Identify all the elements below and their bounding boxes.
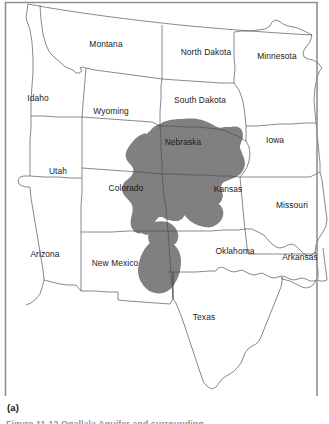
state-label-nebraska: Nebraska [165,137,202,147]
state-label-new-mexico: New Mexico [92,258,139,268]
state-label-idaho: Idaho [27,93,49,103]
subfigure-label: (a) [7,402,19,413]
state-label-texas: Texas [193,312,215,322]
state-label-arkansas: Arkansas [282,252,318,262]
state-label-oklahoma: Oklahoma [216,246,255,256]
figure-caption: Figure 11-12 Ogallala Aquifer and surrou… [6,419,306,424]
state-label-arizona: Arizona [30,249,59,259]
figure-panel: Montana North Dakota Minnesota Idaho Wyo… [0,0,329,424]
state-label-colorado: Colorado [109,183,144,193]
state-label-kansas: Kansas [214,184,243,194]
us-great-plains-map: Montana North Dakota Minnesota Idaho Wyo… [0,0,329,400]
state-label-minnesota: Minnesota [257,51,297,61]
map-area: Montana North Dakota Minnesota Idaho Wyo… [0,0,329,400]
state-label-south-dakota: South Dakota [174,95,226,105]
state-label-utah: Utah [49,166,67,176]
state-label-missouri: Missouri [276,200,308,210]
state-label-north-dakota: North Dakota [181,47,232,57]
state-label-montana: Montana [89,39,123,49]
state-label-iowa: Iowa [266,135,284,145]
state-label-wyoming: Wyoming [93,106,129,116]
